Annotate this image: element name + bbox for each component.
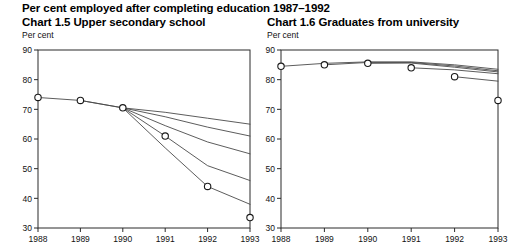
- x-axis-tick-label: 1991: [402, 234, 421, 244]
- data-point-marker: [204, 183, 210, 189]
- data-point-marker: [77, 97, 83, 103]
- y-axis-tick-label: 40: [266, 194, 276, 204]
- x-axis-tick-label: 1988: [29, 234, 48, 244]
- y-axis-tick-label: 70: [266, 105, 276, 115]
- x-axis-tick-label: 1990: [113, 234, 132, 244]
- y-axis-tick-label: 30: [23, 223, 33, 233]
- y-axis-tick-label: 80: [266, 75, 276, 85]
- chart-svg-right: 30405060708090198819891990199119921993: [245, 0, 523, 247]
- y-axis-tick-label: 90: [266, 45, 276, 55]
- x-axis-tick-label: 1989: [71, 234, 90, 244]
- chart-panel-university: 30405060708090198819891990199119921993: [245, 0, 523, 247]
- y-axis-tick-label: 90: [23, 45, 33, 55]
- y-axis-tick-label: 40: [23, 194, 33, 204]
- x-axis-tick-label: 1990: [358, 234, 377, 244]
- x-axis-tick-label: 1992: [445, 234, 464, 244]
- data-point-marker: [35, 94, 41, 100]
- data-point-marker: [495, 97, 501, 103]
- figure-root: Per cent employed after completing educa…: [0, 0, 523, 247]
- y-axis-tick-label: 80: [23, 75, 33, 85]
- y-axis-tick-label: 50: [23, 164, 33, 174]
- x-axis-tick-label: 1993: [489, 234, 508, 244]
- x-axis-tick-label: 1991: [156, 234, 175, 244]
- plot-area-left: 30405060708090198819891990199119921993: [0, 0, 262, 247]
- data-point-marker: [278, 63, 284, 69]
- data-point-marker: [408, 65, 414, 71]
- plot-area-right: 30405060708090198819891990199119921993: [245, 0, 523, 247]
- data-point-marker: [120, 105, 126, 111]
- y-axis-tick-label: 70: [23, 105, 33, 115]
- y-axis-tick-label: 60: [266, 134, 276, 144]
- x-axis-tick-label: 1989: [315, 234, 334, 244]
- y-axis-tick-label: 30: [266, 223, 276, 233]
- x-axis-tick-label: 1988: [272, 234, 291, 244]
- data-point-marker: [451, 74, 457, 80]
- plot-frame: [281, 50, 498, 228]
- x-axis-tick-label: 1992: [198, 234, 217, 244]
- chart-svg-left: 30405060708090198819891990199119921993: [0, 0, 262, 247]
- y-axis-tick-label: 50: [266, 164, 276, 174]
- data-point-marker: [321, 62, 327, 68]
- y-axis-tick-label: 60: [23, 134, 33, 144]
- chart-panel-upper-secondary: 30405060708090198819891990199119921993: [0, 0, 262, 247]
- plot-frame: [38, 50, 250, 228]
- data-point-marker: [365, 60, 371, 66]
- data-point-marker: [162, 133, 168, 139]
